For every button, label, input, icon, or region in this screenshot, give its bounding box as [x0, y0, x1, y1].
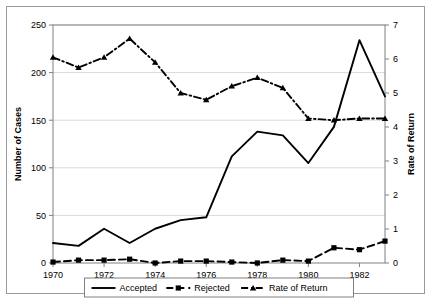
- right-axis-tick-label: 6: [393, 54, 398, 64]
- left-axis-tick-label: 250: [31, 20, 46, 30]
- right-axis-tick-label: 1: [393, 224, 398, 234]
- data-point-marker: [280, 258, 285, 263]
- plot-area-border: [53, 25, 385, 263]
- right-axis-tick-label: 2: [393, 190, 398, 200]
- data-point-marker: [204, 258, 209, 263]
- data-point-marker: [382, 239, 387, 244]
- right-axis-tick-label: 7: [393, 20, 398, 30]
- data-point-marker: [176, 285, 181, 290]
- right-axis-title: Rate of Return: [406, 113, 416, 175]
- axis-titles: Number of CasesRate of Return: [13, 107, 416, 181]
- legend-label: Rejected: [194, 283, 230, 293]
- data-point-marker: [229, 259, 234, 264]
- dual-axis-line-chart: 050100150200250 01234567 197019721974197…: [0, 0, 435, 306]
- left-axis-tick-label: 200: [31, 68, 46, 78]
- data-point-marker: [127, 257, 132, 262]
- data-point-marker: [126, 36, 132, 42]
- left-axis-tick-label: 100: [31, 163, 46, 173]
- series-rejected: [50, 239, 387, 266]
- left-axis-title: Number of Cases: [13, 107, 23, 181]
- right-axis-tick-label: 3: [393, 156, 398, 166]
- data-point-marker: [255, 260, 260, 265]
- left-axis-tick-label: 0: [41, 258, 46, 268]
- data-point-marker: [306, 258, 311, 263]
- data-point-marker: [50, 54, 56, 60]
- data-point-marker: [50, 259, 55, 264]
- series-line: [53, 39, 385, 121]
- plot-border: [53, 25, 385, 263]
- legend-label: Rate of Return: [269, 283, 328, 293]
- data-point-marker: [101, 258, 106, 263]
- series-layer: [50, 36, 388, 266]
- data-point-marker: [357, 247, 362, 252]
- data-point-marker: [153, 260, 158, 265]
- series-rate-of-return: [50, 36, 388, 123]
- left-axis: 050100150200250: [31, 20, 53, 268]
- right-axis-tick-label: 5: [393, 88, 398, 98]
- left-axis-tick-label: 150: [31, 116, 46, 126]
- x-axis-tick-label: 1970: [43, 270, 63, 280]
- right-axis-tick-label: 4: [393, 122, 398, 132]
- right-axis: 01234567: [385, 20, 398, 268]
- data-point-marker: [76, 258, 81, 263]
- left-axis-tick-label: 50: [36, 211, 46, 221]
- data-point-marker: [178, 258, 183, 263]
- data-point-marker: [331, 245, 336, 250]
- x-axis: 1970197219741976197819801982: [43, 263, 369, 280]
- right-axis-tick-label: 0: [393, 258, 398, 268]
- chart-legend: AcceptedRejectedRate of Return: [85, 278, 354, 297]
- data-point-marker: [254, 75, 260, 81]
- legend-label: Accepted: [120, 283, 158, 293]
